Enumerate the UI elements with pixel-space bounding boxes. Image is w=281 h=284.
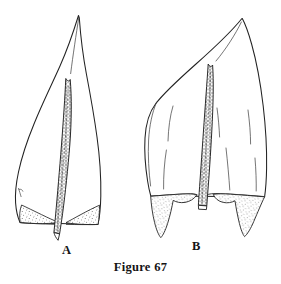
leaf-b-costa-excurrent-tip: [198, 205, 206, 209]
illustration-canvas: [0, 0, 281, 284]
leaf-b-right-auricle: [213, 194, 264, 237]
figure-plate: A B Figure 67: [0, 0, 281, 284]
leaf-b-left-auricle: [151, 194, 197, 238]
specimen-label-b: B: [192, 240, 201, 253]
figure-caption: Figure 67: [0, 261, 281, 274]
leaf-a-costa-excurrent-tip: [54, 233, 60, 241]
specimen-a: [15, 16, 100, 241]
specimen-b: [145, 19, 267, 238]
specimen-label-a: A: [62, 244, 71, 257]
